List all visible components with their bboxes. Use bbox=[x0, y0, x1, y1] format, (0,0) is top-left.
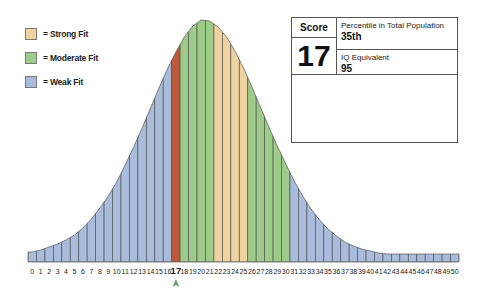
percentile-label: Percentile in Total Population bbox=[341, 18, 457, 31]
x-tick-label: 36 bbox=[333, 268, 341, 275]
x-tick-label: 11 bbox=[122, 268, 129, 275]
x-tick-label: 50 bbox=[451, 268, 459, 275]
percentile-cell: Percentile in Total Population 35th bbox=[336, 18, 457, 50]
x-tick-label: 31 bbox=[290, 268, 298, 275]
x-tick-label: 37 bbox=[341, 268, 349, 275]
x-tick-label: 48 bbox=[434, 268, 442, 275]
x-tick-label: 41 bbox=[375, 268, 383, 275]
bar-21 bbox=[205, 10, 213, 262]
bar-0 bbox=[28, 10, 36, 262]
x-tick-label: 35 bbox=[324, 268, 332, 275]
bar-13 bbox=[138, 10, 146, 262]
x-tick-label: 45 bbox=[409, 268, 417, 275]
x-tick-label: 10 bbox=[113, 268, 121, 275]
x-tick-label: 7 bbox=[89, 268, 93, 275]
x-tick-label: 5 bbox=[73, 268, 77, 275]
score-header: Score bbox=[292, 18, 337, 38]
bar-3 bbox=[53, 10, 61, 262]
x-tick-label: 19 bbox=[189, 268, 197, 275]
x-tick-label: 26 bbox=[248, 268, 256, 275]
x-tick-label: 2 bbox=[47, 268, 51, 275]
x-tick-label: 23 bbox=[223, 268, 231, 275]
score-marker-icon bbox=[172, 279, 179, 287]
x-tick-label: 3 bbox=[56, 268, 60, 275]
x-tick-label: 22 bbox=[214, 268, 222, 275]
x-tick-label: 49 bbox=[442, 268, 450, 275]
bar-18 bbox=[180, 10, 188, 262]
x-tick-label: 21 bbox=[206, 268, 214, 275]
x-tick-label: 6 bbox=[81, 268, 85, 275]
x-tick-label: 32 bbox=[299, 268, 307, 275]
score-box: Score 17 Percentile in Total Population … bbox=[291, 17, 458, 143]
bar-27 bbox=[256, 10, 264, 262]
bar-11 bbox=[121, 10, 129, 262]
x-tick-label: 1 bbox=[39, 268, 43, 275]
iq-label: IQ Equivalent bbox=[341, 50, 457, 63]
bar-7 bbox=[87, 10, 95, 262]
x-tick-label: 13 bbox=[138, 268, 146, 275]
x-tick-label: 40 bbox=[366, 268, 374, 275]
bar-6 bbox=[79, 10, 87, 262]
bar-10 bbox=[113, 10, 121, 262]
bar-24 bbox=[231, 10, 239, 262]
bar-28 bbox=[265, 10, 273, 262]
x-tick-label: 24 bbox=[231, 268, 239, 275]
bar-2 bbox=[45, 10, 53, 262]
bar-26 bbox=[248, 10, 256, 262]
x-tick-label: 15 bbox=[155, 268, 163, 275]
divider bbox=[292, 74, 457, 75]
x-tick-label: 0 bbox=[30, 268, 34, 275]
bar-5 bbox=[70, 10, 78, 262]
x-tick-label: 4 bbox=[64, 268, 68, 275]
bar-22 bbox=[214, 10, 222, 262]
bar-16 bbox=[163, 10, 171, 262]
x-tick-label: 42 bbox=[383, 268, 391, 275]
x-tick-label: 8 bbox=[98, 268, 102, 275]
bar-23 bbox=[222, 10, 230, 262]
bar-1 bbox=[36, 10, 44, 262]
bar-25 bbox=[239, 10, 247, 262]
x-tick-label: 30 bbox=[282, 268, 290, 275]
bar-9 bbox=[104, 10, 112, 262]
bar-29 bbox=[273, 10, 281, 262]
iq-cell: IQ Equivalent 95 bbox=[336, 50, 457, 75]
percentile-value: 35th bbox=[341, 31, 457, 43]
bar-30 bbox=[282, 10, 290, 262]
x-tick-label: 9 bbox=[106, 268, 110, 275]
x-tick-label: 14 bbox=[147, 268, 155, 275]
x-tick-label: 27 bbox=[257, 268, 265, 275]
bar-19 bbox=[189, 10, 197, 262]
x-tick-label: 34 bbox=[316, 268, 324, 275]
bar-15 bbox=[155, 10, 163, 262]
bar-12 bbox=[129, 10, 137, 262]
x-tick-label: 12 bbox=[130, 268, 138, 275]
x-tick-label: 38 bbox=[349, 268, 357, 275]
bar-8 bbox=[96, 10, 104, 262]
x-tick-label: 39 bbox=[358, 268, 366, 275]
x-tick-label: 43 bbox=[392, 268, 400, 275]
x-tick-label: 46 bbox=[417, 268, 425, 275]
x-tick-label: 20 bbox=[197, 268, 205, 275]
x-tick-label: 44 bbox=[400, 268, 408, 275]
score-value: 17 bbox=[292, 37, 337, 74]
bar-17 bbox=[172, 10, 180, 262]
x-tick-label: 25 bbox=[240, 268, 248, 275]
bar-4 bbox=[62, 10, 70, 262]
x-tick-label: 28 bbox=[265, 268, 273, 275]
bar-20 bbox=[197, 10, 205, 262]
x-tick-label: 18 bbox=[180, 268, 188, 275]
x-tick-label: 47 bbox=[426, 268, 434, 275]
bar-14 bbox=[146, 10, 154, 262]
x-tick-label: 33 bbox=[307, 268, 315, 275]
x-tick-label: 29 bbox=[273, 268, 281, 275]
